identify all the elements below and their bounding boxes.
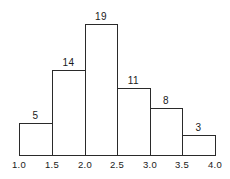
bar-value-label: 8 [151,96,181,106]
bar-value-label: 11 [119,76,149,86]
x-tick-label: 3.5 [170,160,194,170]
x-tick-label: 4.0 [203,160,227,170]
x-tick-label: 2.5 [105,160,129,170]
histogram-bar [117,88,151,156]
bar-value-label: 5 [21,111,51,121]
x-tick-label: 3.0 [138,160,162,170]
x-tick-label: 1.5 [40,160,64,170]
histogram-chart: 5141911831.01.52.02.53.03.54.0 [0,0,230,179]
x-tick-label: 2.0 [73,160,97,170]
bar-value-label: 19 [86,12,116,22]
histogram-bar [52,70,86,156]
histogram-bar [85,24,118,156]
histogram-bar [19,123,53,156]
x-tick-label: 1.0 [7,160,31,170]
bar-value-label: 14 [54,58,84,68]
histogram-bar [150,108,183,156]
histogram-bar [182,135,216,156]
bar-value-label: 3 [184,123,214,133]
